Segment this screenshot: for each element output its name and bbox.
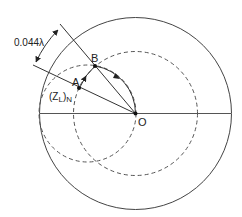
- load-impedance-label: (ZL)N: [49, 91, 72, 104]
- load-impedance-open: (Z: [49, 91, 58, 102]
- a-to-b-arrow: [80, 76, 86, 87]
- point-a-label: A: [72, 76, 80, 88]
- center-o-label: O: [138, 116, 147, 128]
- point-b: [93, 64, 97, 68]
- point-b-label: B: [91, 52, 98, 64]
- smith-chart-diagram: 0.044λ B A O (ZL)N: [0, 0, 242, 217]
- a-to-b-segment: [86, 66, 95, 76]
- load-impedance-norm: N: [66, 95, 72, 104]
- distance-label: 0.044λ: [14, 37, 44, 48]
- point-o: [134, 112, 138, 116]
- radial-line-a: [33, 65, 136, 114]
